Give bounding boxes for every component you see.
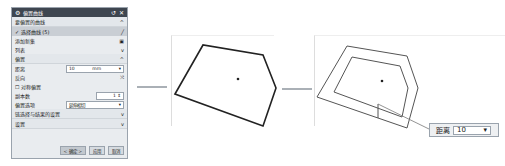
popup-distance-input[interactable]: 10 ▾ [453, 126, 491, 135]
dropdown-arrow-icon: ▾ [483, 126, 487, 134]
distance-popup: 距离 10 ▾ [429, 123, 499, 137]
